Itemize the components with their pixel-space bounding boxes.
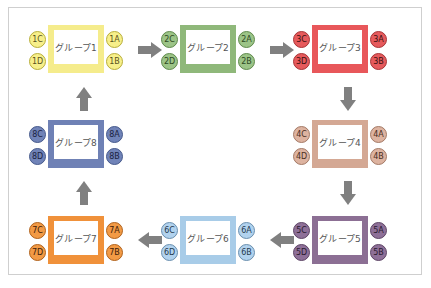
- seat-6c: 6C: [161, 222, 178, 239]
- group-1-table: グループ1: [48, 25, 104, 73]
- group-3-table: グループ3: [312, 25, 368, 73]
- seat-3b: 3B: [370, 53, 387, 70]
- seat-8a: 8A: [106, 126, 123, 143]
- seat-4d: 4D: [293, 148, 310, 165]
- group-7: グループ7 7C 7D 7A 7B: [32, 216, 120, 264]
- arrow-left-icon: [270, 232, 294, 248]
- seat-7d: 7D: [29, 244, 46, 261]
- seat-4b: 4B: [370, 148, 387, 165]
- group-8-label: グループ8: [55, 136, 97, 149]
- seat-7b: 7B: [106, 244, 123, 261]
- seat-2b: 2B: [238, 53, 255, 70]
- group-3-label: グループ3: [319, 41, 361, 54]
- seat-8c: 8C: [29, 126, 46, 143]
- group-5-table: グループ5: [312, 216, 368, 264]
- group-7-table: グループ7: [48, 216, 104, 264]
- seat-5b: 5B: [370, 244, 387, 261]
- seat-5a: 5A: [370, 222, 387, 239]
- arrow-up-icon: [76, 87, 92, 111]
- group-7-label: グループ7: [55, 232, 97, 245]
- arrow-right-icon: [138, 42, 162, 58]
- group-2: グループ2 2C 2D 2A 2B: [164, 25, 252, 73]
- seat-4a: 4A: [370, 126, 387, 143]
- arrow-up-icon: [76, 181, 92, 205]
- group-6: グループ6 6C 6D 6A 6B: [164, 216, 252, 264]
- group-4-label: グループ4: [319, 136, 361, 149]
- seat-8d: 8D: [29, 148, 46, 165]
- seat-4c: 4C: [293, 126, 310, 143]
- group-4: グループ4 4C 4D 4A 4B: [296, 120, 384, 168]
- seat-7a: 7A: [106, 222, 123, 239]
- arrow-right-icon: [270, 42, 294, 58]
- group-2-table: グループ2: [180, 25, 236, 73]
- group-1: グループ1 1C 1D 1A 1B: [32, 25, 120, 73]
- arrow-down-icon: [340, 87, 356, 111]
- group-6-table: グループ6: [180, 216, 236, 264]
- group-5: グループ5 5C 5D 5A 5B: [296, 216, 384, 264]
- seat-3d: 3D: [293, 53, 310, 70]
- seat-3c: 3C: [293, 31, 310, 48]
- seat-2c: 2C: [161, 31, 178, 48]
- seat-2d: 2D: [161, 53, 178, 70]
- seat-8b: 8B: [106, 148, 123, 165]
- group-8: グループ8 8C 8D 8A 8B: [32, 120, 120, 168]
- seat-1c: 1C: [29, 31, 46, 48]
- group-6-label: グループ6: [187, 232, 229, 245]
- seat-3a: 3A: [370, 31, 387, 48]
- group-1-label: グループ1: [55, 41, 97, 54]
- arrow-down-icon: [340, 181, 356, 205]
- seat-2a: 2A: [238, 31, 255, 48]
- seat-6a: 6A: [238, 222, 255, 239]
- seat-1b: 1B: [106, 53, 123, 70]
- seat-5d: 5D: [293, 244, 310, 261]
- seat-6d: 6D: [161, 244, 178, 261]
- seat-1d: 1D: [29, 53, 46, 70]
- group-3: グループ3 3C 3D 3A 3B: [296, 25, 384, 73]
- group-4-table: グループ4: [312, 120, 368, 168]
- arrow-left-icon: [138, 232, 162, 248]
- seat-7c: 7C: [29, 222, 46, 239]
- group-8-table: グループ8: [48, 120, 104, 168]
- seat-6b: 6B: [238, 244, 255, 261]
- group-2-label: グループ2: [187, 41, 229, 54]
- seat-1a: 1A: [106, 31, 123, 48]
- seat-5c: 5C: [293, 222, 310, 239]
- group-5-label: グループ5: [319, 232, 361, 245]
